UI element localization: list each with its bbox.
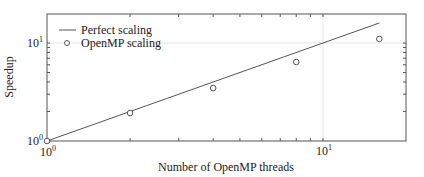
legend-circle-symbol bbox=[65, 41, 70, 46]
speedup-chart: 101 100 100 101 Number of OpenMP threads… bbox=[0, 0, 424, 177]
legend-label-openmp-scaling: OpenMP scaling bbox=[81, 36, 161, 50]
legend-label-perfect-scaling: Perfect scaling bbox=[81, 23, 152, 37]
x-tick-label-10-1: 101 bbox=[316, 143, 332, 158]
openmp-data-point bbox=[44, 138, 50, 144]
openmp-data-point bbox=[210, 85, 216, 91]
legend: Perfect scaling OpenMP scaling bbox=[59, 23, 161, 50]
openmp-data-point bbox=[127, 110, 133, 116]
y-axis-label: Speedup bbox=[2, 56, 16, 97]
x-tick-label-10-0: 100 bbox=[40, 144, 56, 159]
openmp-data-point bbox=[293, 59, 299, 65]
y-tick-label-10-1: 101 bbox=[27, 35, 43, 50]
openmp-data-point bbox=[377, 36, 383, 42]
x-axis-label: Number of OpenMP threads bbox=[158, 160, 294, 174]
